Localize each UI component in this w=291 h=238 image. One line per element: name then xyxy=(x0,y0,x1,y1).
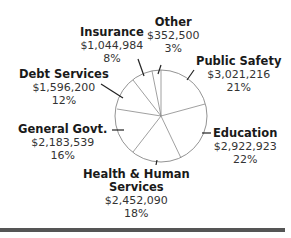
label-amount: $3,021,216 xyxy=(196,68,281,81)
label-name: Other xyxy=(147,16,200,29)
label-public-safety: Public Safety $3,021,216 21% xyxy=(196,55,281,94)
label-amount: $2,183,539 xyxy=(18,136,107,149)
label-name: Public Safety xyxy=(196,55,281,68)
label-name: Services xyxy=(83,181,190,194)
bottom-rule xyxy=(0,228,285,232)
label-percent: 18% xyxy=(83,207,190,220)
label-debt-services: Debt Services $1,596,200 12% xyxy=(19,68,109,107)
label-general-govt: General Govt. $2,183,539 16% xyxy=(18,123,107,162)
label-amount: $1,596,200 xyxy=(19,81,109,94)
label-health-human-services: Health & Human Services $2,452,090 18% xyxy=(83,168,190,220)
label-other: Other $352,500 3% xyxy=(147,16,200,55)
label-name: Education xyxy=(213,127,277,140)
label-name: Debt Services xyxy=(19,68,109,81)
label-amount: $2,452,090 xyxy=(83,194,190,207)
label-percent: 22% xyxy=(213,153,277,166)
label-name: General Govt. xyxy=(18,123,107,136)
label-amount: $2,922,923 xyxy=(213,140,277,153)
label-amount: $352,500 xyxy=(147,29,200,42)
leader-public-safety xyxy=(187,70,194,80)
label-percent: 16% xyxy=(18,149,107,162)
label-percent: 12% xyxy=(19,94,109,107)
label-percent: 3% xyxy=(147,42,200,55)
label-amount: $1,044,984 xyxy=(80,39,144,52)
label-percent: 8% xyxy=(80,52,144,65)
label-insurance: Insurance $1,044,984 8% xyxy=(80,26,144,65)
label-name: Insurance xyxy=(80,26,144,39)
label-percent: 21% xyxy=(196,81,281,94)
label-education: Education $2,922,923 22% xyxy=(213,127,277,166)
